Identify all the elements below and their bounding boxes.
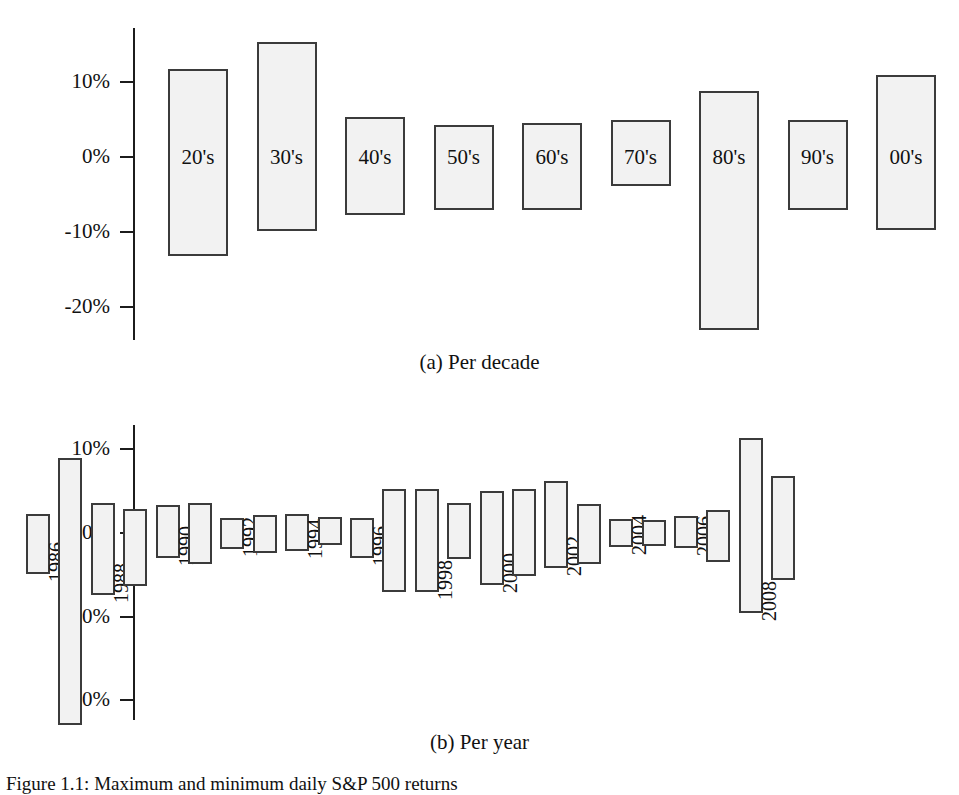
x-axis-tick-label: 1998 — [435, 560, 455, 600]
plot-area-per-year: 10%0%-10%-20%198619881990199219941996199… — [0, 400, 959, 730]
bar-1993 — [253, 515, 277, 553]
y-axis-tick — [120, 699, 133, 701]
bar-2005 — [642, 520, 666, 545]
figure-caption: Figure 1.1: Maximum and minimum daily S&… — [6, 772, 953, 795]
y-axis-tick — [120, 616, 133, 618]
bar-1989 — [123, 509, 147, 586]
bar-2003 — [577, 504, 601, 564]
bar-label: 60's — [522, 147, 582, 168]
y-axis-tick — [120, 306, 133, 308]
subcaption-per-decade: (a) Per decade — [0, 350, 959, 374]
chart-panel-per-year: 10%0%-10%-20%198619881990199219941996199… — [0, 400, 959, 760]
bar-label: 20's — [168, 147, 228, 168]
bar-label: 30's — [257, 147, 317, 168]
bar-label: 80's — [699, 147, 759, 168]
bar-1991 — [188, 503, 212, 564]
bar-1995 — [318, 517, 342, 545]
bar-label: 40's — [345, 147, 405, 168]
bar-1987 — [58, 458, 82, 726]
bar-1999 — [447, 503, 471, 559]
y-axis-tick — [120, 231, 133, 233]
x-axis-tick-label: 2008 — [759, 581, 779, 621]
bar-30s — [257, 42, 317, 230]
chart-panel-per-decade: 10%0%-10%-20%20's30's40's50's60's70's80'… — [0, 0, 959, 395]
y-axis-tick-label: -20% — [18, 296, 110, 317]
bar-2007 — [706, 510, 730, 563]
subcaption-per-year: (b) Per year — [0, 730, 959, 754]
plot-area-per-decade: 10%0%-10%-20%20's30's40's50's60's70's80'… — [0, 0, 959, 345]
bar-2009 — [771, 476, 795, 580]
y-axis-tick — [120, 448, 133, 450]
y-axis-tick — [120, 81, 133, 83]
bar-1997 — [382, 489, 406, 592]
bar-80s — [699, 91, 759, 330]
y-axis-line — [133, 28, 135, 340]
bar-label: 90's — [788, 147, 848, 168]
y-axis-tick-label: 10% — [18, 71, 110, 92]
y-axis-tick — [120, 156, 133, 158]
y-axis-tick-label: -10% — [18, 221, 110, 242]
y-axis-tick-label: 10% — [18, 438, 110, 459]
y-axis-tick-label: 0% — [18, 146, 110, 167]
bar-2001 — [512, 489, 536, 575]
bar-label: 00's — [876, 147, 936, 168]
bar-label: 50's — [434, 147, 494, 168]
bar-label: 70's — [611, 147, 671, 168]
